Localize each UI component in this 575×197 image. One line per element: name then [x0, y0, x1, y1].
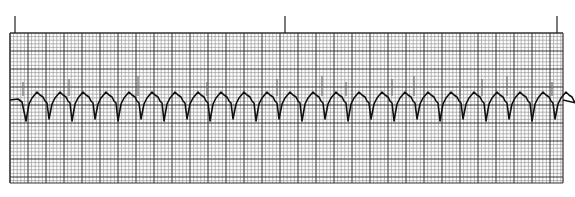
ecg-strip	[0, 0, 575, 197]
time-markers	[15, 16, 557, 33]
ecg-trace	[10, 92, 575, 121]
